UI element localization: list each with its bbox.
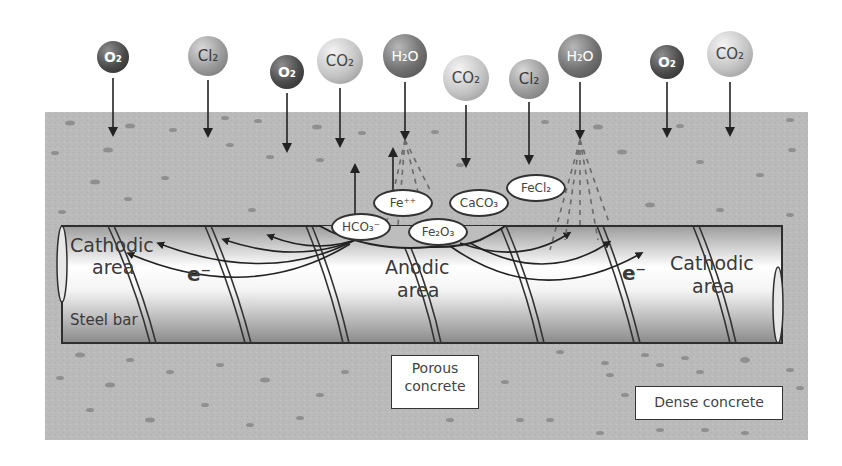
product-fe2o3: Fe₂O₃ bbox=[408, 218, 468, 246]
steel-bar-left-end bbox=[57, 226, 67, 302]
anodic-area-label: Anodic bbox=[385, 258, 449, 277]
molecule-o2-3: O₂ bbox=[650, 45, 684, 79]
molecule-cl2-2: Cl₂ bbox=[509, 59, 549, 99]
ion-fe2: Fe⁺⁺ bbox=[373, 189, 433, 217]
steel-bar-label: Steel bar bbox=[70, 313, 138, 328]
molecule-co2-2: CO₂ bbox=[443, 55, 489, 101]
cathodic-area-right-label-2: area bbox=[692, 277, 734, 296]
molecule-h2o-1: H₂O bbox=[383, 34, 427, 78]
dense-concrete-label: Dense concrete bbox=[635, 386, 783, 420]
molecule-co2-3: CO₂ bbox=[707, 31, 753, 77]
molecule-co2-1: CO₂ bbox=[317, 38, 363, 84]
molecule-o2-2: O₂ bbox=[270, 55, 304, 89]
molecule-o2-1: O₂ bbox=[97, 41, 129, 73]
ion-hco3: HCO₃⁻ bbox=[331, 213, 391, 241]
electron-label-right: e⁻ bbox=[622, 263, 646, 283]
cathodic-area-left-label: Cathodic bbox=[70, 236, 154, 255]
electron-label-left: e⁻ bbox=[187, 264, 211, 284]
molecule-cl2-1: Cl₂ bbox=[188, 36, 228, 76]
product-fecl2: FeCl₂ bbox=[506, 174, 566, 202]
porous-concrete-line2: concrete bbox=[392, 378, 478, 396]
cathodic-area-left-label-2: area bbox=[92, 258, 134, 277]
molecule-h2o-2: H₂O bbox=[558, 34, 602, 78]
steel-bar-right-end bbox=[773, 267, 783, 343]
porous-concrete-label: Porous concrete bbox=[391, 355, 479, 409]
anodic-area-label-2: area bbox=[397, 281, 439, 300]
cathodic-area-right-label: Cathodic bbox=[670, 254, 754, 273]
product-caco3: CaCO₃ bbox=[449, 189, 509, 217]
porous-concrete-line1: Porous bbox=[392, 360, 478, 378]
corrosion-diagram: O₂ Cl₂ O₂ CO₂ H₂O CO₂ Cl₂ H₂O O₂ CO₂ HCO… bbox=[0, 0, 842, 466]
